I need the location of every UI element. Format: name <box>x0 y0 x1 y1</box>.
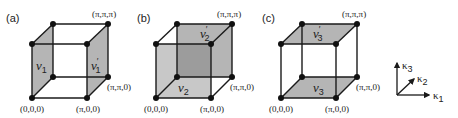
vertex-label-pi-pi-pi: (π,π,π) <box>217 9 241 19</box>
vertex-label-pi-pi-0: (π,π,0) <box>230 82 254 92</box>
brillouin-zone-cube-figure: (a) ν1 ν′1 (π,π,π) (π,π,0) <box>0 0 458 118</box>
k2-axis-label: κ2 <box>417 72 428 87</box>
face-overlap <box>177 44 211 77</box>
panel-c: (c) ν3 ν′3 (π,π,π) (π,π,0) ( <box>262 9 380 114</box>
panel-b-label: (b) <box>137 12 150 24</box>
panel-a-label: (a) <box>6 12 19 24</box>
vertex-label-pi-0-0: (π,0,0) <box>325 104 349 114</box>
vertex-label-pi-pi-pi: (π,π,π) <box>342 9 366 19</box>
k2-axis-arrow <box>397 79 414 95</box>
k1-axis-label: κ1 <box>433 89 444 104</box>
vertex-label-origin: (0,0,0) <box>144 104 168 114</box>
vertex-label-pi-pi-0: (π,π,0) <box>107 82 131 92</box>
panel-c-label: (c) <box>262 12 275 24</box>
vertex-label-pi-pi-pi: (π,π,π) <box>92 9 116 19</box>
panel-b: (b) ν2 ν′2 (π,π,π) (π, <box>137 9 254 114</box>
vertex-label-pi-0-0: (π,0,0) <box>200 104 224 114</box>
vertex-label-origin: (0,0,0) <box>20 104 44 114</box>
k3-axis-label: κ3 <box>402 59 413 74</box>
vertex-label-pi-0-0: (π,0,0) <box>76 104 100 114</box>
vertex-label-pi-pi-0: (π,π,0) <box>356 82 380 92</box>
vertex-label-origin: (0,0,0) <box>269 104 293 114</box>
k-axes: κ3 κ2 κ1 <box>397 59 444 104</box>
panel-a: (a) ν1 ν′1 (π,π,π) (π,π,0) <box>6 9 131 114</box>
